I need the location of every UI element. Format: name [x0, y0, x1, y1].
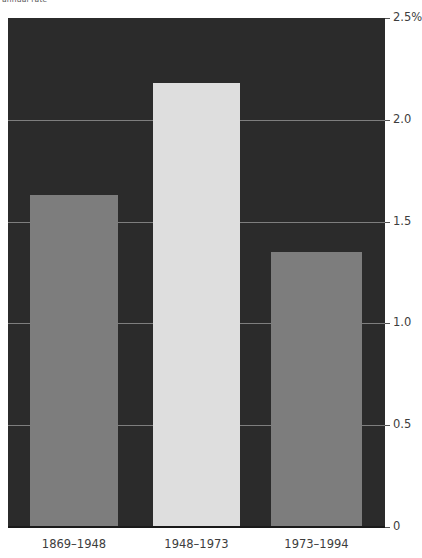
y-axis-label: 2.0: [393, 114, 411, 126]
bar[interactable]: [30, 195, 118, 527]
y-axis-label: 1.5: [393, 216, 411, 228]
x-axis-baseline: [8, 526, 385, 528]
y-axis-label: 0: [393, 521, 400, 533]
y-axis-tick: [385, 120, 390, 121]
bar[interactable]: [153, 83, 240, 527]
bar[interactable]: [271, 252, 362, 527]
y-axis-label: 0.5: [393, 419, 411, 431]
y-axis-tick: [385, 527, 390, 528]
y-axis-tick: [385, 323, 390, 324]
chart-title: annual rate: [2, 0, 182, 4]
y-axis-tick: [385, 222, 390, 223]
x-axis-label: 1973–1994: [241, 538, 392, 550]
plot-area: [8, 18, 385, 527]
y-axis-tick: [385, 425, 390, 426]
y-axis-label: 2.5%: [393, 12, 422, 24]
y-axis-label: 1.0: [393, 317, 411, 329]
y-axis-tick: [385, 18, 390, 19]
